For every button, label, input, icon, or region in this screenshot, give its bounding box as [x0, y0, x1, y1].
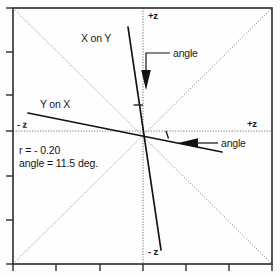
series-label-x-on-y: X on Y	[81, 32, 111, 44]
axis-label-top: +z	[148, 10, 158, 21]
figure-canvas: +z +z - z - z X on Y Y on X angle angle …	[0, 0, 280, 277]
left-axis-ticks	[6, 8, 13, 264]
series-label-y-on-x: Y on X	[40, 98, 70, 110]
stat-angle: angle = 11.5 deg.	[19, 157, 98, 169]
annotation-angle-right: angle	[221, 137, 246, 149]
annotation-angle-top: angle	[173, 47, 198, 59]
axis-label-left: - z	[17, 119, 27, 130]
axis-label-bottom: - z	[148, 246, 158, 257]
axis-label-right: +z	[247, 118, 257, 129]
bottom-axis-ticks	[13, 264, 272, 271]
stat-correlation: r = - 0.20	[19, 144, 60, 156]
